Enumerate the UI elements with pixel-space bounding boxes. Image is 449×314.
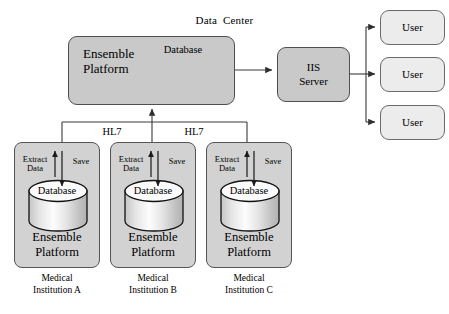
institution-a-caption: Medical Institution A <box>14 273 100 297</box>
user-box-3: User <box>380 105 445 140</box>
hl7-label-left: HL7 <box>82 126 142 137</box>
institution-b-database-label: Database <box>111 185 195 197</box>
institution-c-caption: Medical Institution C <box>206 273 292 297</box>
extract-data-label-b: Extract Data <box>113 155 149 174</box>
architecture-diagram: Data Center Ensemble Platform Database I… <box>0 0 449 314</box>
institution-a-database-label: Database <box>15 185 99 197</box>
user-label-2: User <box>402 68 423 80</box>
extract-data-label-a: Extract Data <box>17 155 53 174</box>
institution-box-c: Extract Data Save Database Ensemble Plat… <box>206 142 292 268</box>
save-label-c: Save <box>257 157 289 166</box>
iis-server-label: IIS Server <box>299 61 328 87</box>
save-label-a: Save <box>65 157 97 166</box>
institution-box-b: Extract Data Save Database Ensemble Plat… <box>110 142 196 268</box>
user-label-1: User <box>402 21 423 33</box>
hl7-label-right: HL7 <box>164 126 224 137</box>
institution-b-platform-label: Ensemble Platform <box>111 230 195 259</box>
user-box-2: User <box>380 57 445 92</box>
data-center-platform-label: Ensemble Platform <box>83 47 134 77</box>
save-label-b: Save <box>161 157 193 166</box>
extract-data-label-c: Extract Data <box>209 155 245 174</box>
user-label-3: User <box>402 116 423 128</box>
institution-box-a: Extract Data Save Database Ensemble Plat… <box>14 142 100 268</box>
institution-b-caption: Medical Institution B <box>110 273 196 297</box>
iis-server-box: IIS Server <box>277 47 350 102</box>
institution-a-platform-label: Ensemble Platform <box>15 230 99 259</box>
institution-c-database-label: Database <box>207 185 291 197</box>
user-box-1: User <box>380 10 445 45</box>
data-center-database-label: Database <box>153 44 213 55</box>
institution-c-platform-label: Ensemble Platform <box>207 230 291 259</box>
